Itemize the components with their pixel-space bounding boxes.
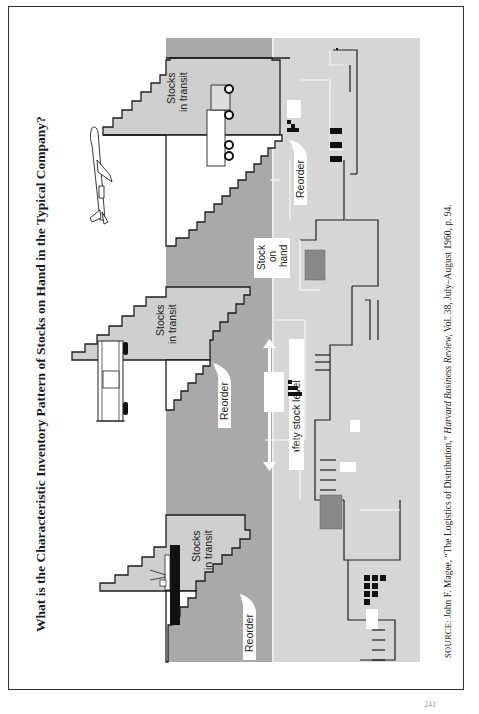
svg-text:Stocks: Stocks: [154, 304, 166, 336]
railroad-car-icon: [96, 341, 128, 421]
svg-text:Reorder: Reorder: [218, 382, 230, 420]
svg-text:Stocks: Stocks: [190, 530, 202, 562]
svg-text:in transit: in transit: [202, 530, 214, 570]
reorder-label-3: Reorder: [294, 160, 306, 198]
page: What is the Characteristic Inventory Pat…: [0, 0, 479, 714]
svg-text:Stocks: Stocks: [165, 72, 177, 104]
inventory-diagram: Reorder Reorder Reorder Stocks in transi…: [0, 0, 479, 714]
svg-text:in transit: in transit: [166, 304, 178, 344]
svg-text:on: on: [267, 251, 278, 262]
svg-text:in transit: in transit: [177, 72, 189, 112]
svg-text:hand: hand: [278, 245, 289, 267]
reorder-label-1: Reorder: [243, 614, 255, 652]
svg-text:Reorder: Reorder: [243, 614, 255, 652]
svg-text:Stock: Stock: [256, 244, 267, 270]
reorder-label-2: Reorder: [218, 382, 230, 420]
svg-text:Reorder: Reorder: [294, 160, 306, 198]
